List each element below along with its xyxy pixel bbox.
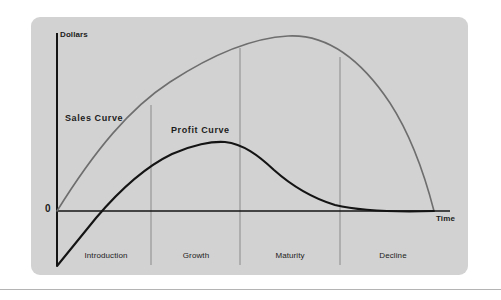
stage-label-maturity: Maturity	[259, 252, 321, 260]
product-life-cycle-figure: Dollars 0 Time Sales Curve Profit Curve …	[0, 0, 501, 300]
sales-curve-label: Sales Curve	[65, 114, 123, 123]
stage-label-growth: Growth	[165, 252, 227, 260]
y-axis-label: Dollars	[60, 31, 88, 39]
stage-label-decline: Decline	[362, 252, 424, 260]
sales-curve-path	[57, 36, 434, 211]
profit-curve-path	[57, 142, 434, 266]
x-axis-label: Time	[436, 215, 455, 223]
origin-label: 0	[45, 204, 51, 214]
stage-label-introduction: Introduction	[75, 252, 137, 260]
profit-curve-label: Profit Curve	[171, 126, 230, 135]
bottom-divider-rule	[0, 289, 501, 290]
